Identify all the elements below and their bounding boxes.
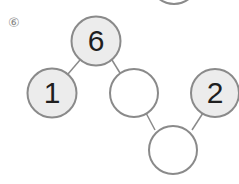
connector-top-middle bbox=[112, 60, 120, 73]
connector-top-left bbox=[68, 60, 80, 74]
node-left-value: 1 bbox=[32, 78, 72, 108]
node-bottom-answer[interactable] bbox=[149, 126, 197, 174]
connector-right-bottom bbox=[192, 113, 203, 130]
node-right-value: 2 bbox=[195, 78, 235, 108]
problem-number-label: ⑥ bbox=[8, 15, 20, 30]
connector-middle-bottom bbox=[146, 113, 155, 130]
node-top-value: 6 bbox=[76, 26, 116, 56]
partial-circle-previous bbox=[150, 0, 198, 4]
node-middle-answer[interactable] bbox=[110, 69, 158, 117]
